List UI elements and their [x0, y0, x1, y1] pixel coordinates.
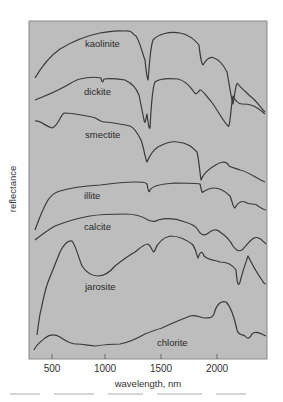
y-axis-title: reflectance	[7, 166, 18, 212]
x-tick-label-1500: 1500	[150, 363, 173, 374]
spectra-chart: kaolinite dickite smectite illite calcit…	[0, 0, 283, 402]
smectite-label: smectite	[85, 129, 120, 140]
caption-line-segment	[157, 393, 202, 395]
x-axis-title: wavelength, nm	[114, 378, 182, 389]
illite-label: illite	[84, 190, 100, 201]
x-tick-label-2000: 2000	[206, 363, 229, 374]
caption-line-segment	[10, 393, 40, 395]
caption-line-segment	[108, 393, 143, 395]
calcite-label: calcite	[84, 221, 111, 232]
dickite-label: dickite	[84, 86, 111, 97]
jarosite-label: jarosite	[84, 281, 116, 292]
caption-fragment	[10, 393, 270, 396]
chlorite-label: chlorite	[157, 337, 188, 348]
caption-line-segment	[216, 393, 246, 395]
x-tick-label-500: 500	[44, 363, 61, 374]
caption-line-segment	[54, 393, 94, 395]
kaolinite-label: kaolinite	[85, 38, 120, 49]
x-tick-label-1000: 1000	[94, 363, 117, 374]
